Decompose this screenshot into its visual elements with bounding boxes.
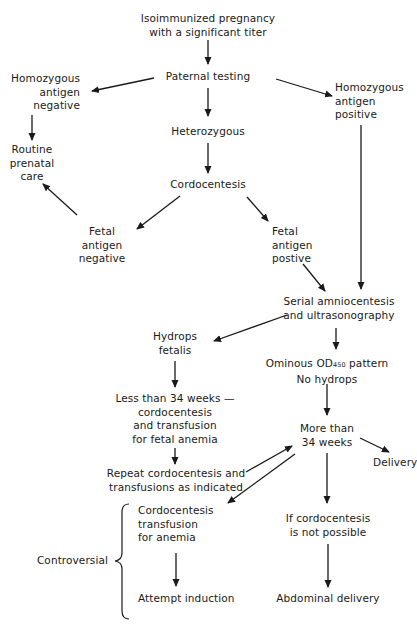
node-more-than-34-weeks: More than 34 weeks bbox=[290, 422, 364, 449]
arrow-cordo-to-fetal-positive bbox=[247, 197, 268, 221]
node-cordocentesis-transfusion: Cordocentesis transfusion for anemia bbox=[138, 504, 228, 545]
node-fetal-antigen-negative: Fetal antigen negative bbox=[72, 225, 132, 266]
node-abdominal-delivery: Abdominal delivery bbox=[272, 592, 384, 606]
arrow-fetal-negative-to-routine bbox=[43, 184, 77, 215]
arrow-paternal-to-homo-negative bbox=[92, 78, 154, 91]
node-paternal-testing: Paternal testing bbox=[158, 70, 258, 84]
arrow-cordo-to-fetal-negative bbox=[137, 196, 180, 229]
node-delivery: Delivery bbox=[373, 456, 417, 470]
node-heterozygous: Heterozygous bbox=[160, 125, 256, 139]
ominous-text: Ominous OD bbox=[266, 357, 333, 369]
label-controversial: Controversial bbox=[20, 554, 108, 568]
node-fetal-antigen-positive: Fetal antigen postive bbox=[272, 225, 332, 266]
no-hydrops-text: No hydrops bbox=[297, 373, 358, 385]
controversial-brace bbox=[115, 504, 129, 619]
node-routine-care: Routine prenatal care bbox=[4, 143, 60, 184]
node-attempt-induction: Attempt induction bbox=[138, 592, 238, 606]
node-cordocentesis: Cordocentesis bbox=[160, 178, 256, 192]
node-hydrops-fetalis: Hydrops fetalis bbox=[140, 330, 210, 357]
node-homozygous-positive: Homozygous antigen positive bbox=[335, 81, 415, 122]
node-repeat-cordocentesis: Repeat cordocentesis and transfusions as… bbox=[98, 467, 254, 494]
od-subscript: 450 bbox=[333, 361, 346, 369]
node-serial-amniocentesis: Serial amniocentesis and ultrasonography bbox=[264, 295, 414, 322]
node-start: Isoimmunized pregnancy with a significan… bbox=[128, 12, 288, 39]
arrow-fetal-positive-to-serial bbox=[303, 264, 325, 291]
node-ominous-pattern: Ominous OD450 pattern No hydrops bbox=[262, 357, 392, 386]
arrow-more-to-delivery bbox=[360, 438, 389, 452]
arrow-paternal-to-homo-positive bbox=[276, 79, 332, 96]
node-if-not-possible: If cordocentesis is not possible bbox=[280, 512, 376, 539]
ominous-text-post: pattern bbox=[346, 357, 389, 369]
node-homozygous-negative: Homozygous antigen negative bbox=[4, 72, 80, 113]
node-less-than-34-weeks: Less than 34 weeks — cordocentesis and t… bbox=[100, 392, 250, 446]
